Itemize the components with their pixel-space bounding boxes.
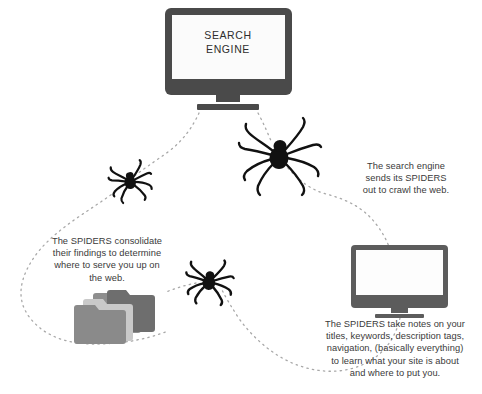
path-engine-to-left-spider — [133, 113, 199, 177]
search-engine-monitor — [165, 8, 292, 110]
spider-left — [107, 159, 155, 205]
spider-center — [184, 258, 235, 306]
caption-search-engine-sends-spiders: The search engine sends its SPIDERS out … — [331, 160, 481, 197]
search-engine-monitor-stand — [197, 104, 259, 110]
seo-spider-diagram: SEARCH ENGINE The search engine sends it… — [0, 0, 482, 394]
search-engine-monitor-neck — [216, 95, 240, 102]
search-engine-label-line2: ENGINE — [206, 43, 250, 55]
search-engine-label-line1: SEARCH — [204, 29, 251, 41]
spider-large — [239, 118, 321, 195]
folder-stack — [74, 290, 155, 344]
website-monitor-neck — [391, 308, 408, 313]
caption-spiders-consolidate-findings: The SPIDERS consolidate their findings t… — [31, 235, 183, 284]
folder-item — [74, 305, 126, 344]
path-engine-to-large-spider — [258, 113, 272, 143]
caption-spiders-take-notes: The SPIDERS take notes on your titles, k… — [308, 318, 482, 379]
website-monitor — [351, 245, 448, 318]
website-monitor-screen — [356, 250, 443, 295]
